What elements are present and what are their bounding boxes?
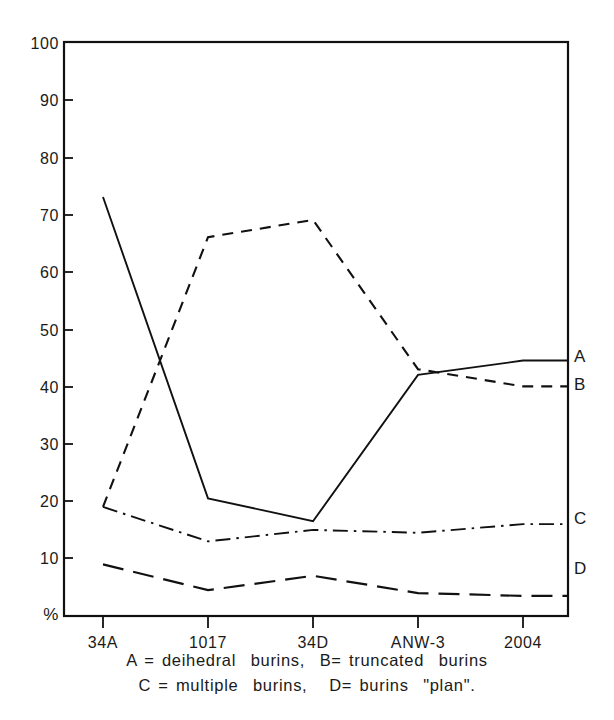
y-axis-ticks	[64, 100, 73, 558]
caption-line-1: A = deihedral burins, B= truncated burin…	[0, 648, 614, 673]
chart-caption: A = deihedral burins, B= truncated burin…	[0, 648, 614, 698]
y-tick-label-30: 30	[40, 436, 59, 453]
chart-plot-area: 100 90 80 70 60 50 40 30 20 10 % 34A 101…	[0, 0, 614, 720]
y-tick-label-80: 80	[40, 150, 59, 167]
series-line-c	[103, 507, 568, 541]
y-tick-label-70: 70	[40, 207, 59, 224]
series-label-a: A	[574, 347, 586, 366]
series-label-d: D	[574, 559, 587, 578]
y-tick-label-100: 100	[31, 35, 60, 52]
y-axis-percent-label: %	[43, 605, 59, 624]
y-tick-label-50: 50	[40, 322, 59, 339]
series-line-a	[103, 197, 568, 521]
y-axis-labels: 100 90 80 70 60 50 40 30 20 10 %	[31, 35, 60, 624]
caption-line-2: C = multiple burins, D= burins "plan".	[0, 673, 614, 698]
data-series-group	[103, 197, 568, 596]
x-axis-ticks	[103, 616, 523, 628]
y-tick-label-60: 60	[40, 264, 59, 281]
series-line-d	[103, 564, 568, 596]
y-tick-label-40: 40	[40, 379, 59, 396]
y-tick-label-10: 10	[40, 550, 59, 567]
series-label-c: C	[574, 509, 587, 528]
line-chart-figure: 100 90 80 70 60 50 40 30 20 10 % 34A 101…	[0, 0, 614, 720]
y-tick-label-90: 90	[40, 92, 59, 109]
y-tick-label-20: 20	[40, 493, 59, 510]
series-labels-group: A B C D	[574, 347, 587, 578]
series-label-b: B	[574, 375, 586, 394]
